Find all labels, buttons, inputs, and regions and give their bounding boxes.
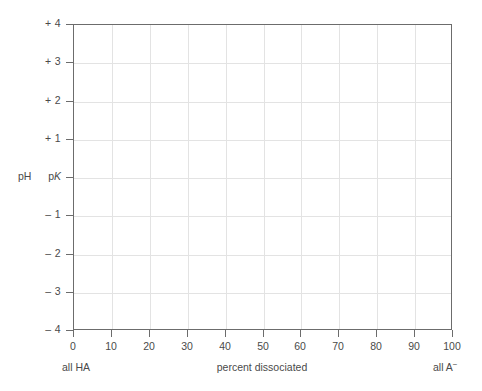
y-axis-tick-mark	[66, 101, 73, 102]
y-axis-tick-mark	[66, 139, 73, 140]
x-axis-tick-label: 100	[443, 340, 461, 352]
gridline-horizontal	[74, 63, 451, 64]
gridline-vertical	[339, 25, 340, 329]
gridline-vertical	[377, 25, 378, 329]
y-axis-title: pH	[18, 170, 31, 182]
plot-area	[73, 24, 452, 330]
gridline-vertical	[301, 25, 302, 329]
y-axis-tick-mark	[66, 62, 73, 63]
x-axis-tick-mark	[338, 330, 339, 337]
x-axis-tick-label: 30	[181, 340, 193, 352]
gridline-horizontal	[74, 140, 451, 141]
annotation-all-a-base: all A	[433, 361, 453, 373]
y-axis-tick-label: – 3	[45, 285, 61, 297]
y-axis-tick-mark	[66, 24, 73, 25]
x-axis-title: percent dissociated	[217, 361, 307, 373]
gridline-horizontal	[74, 102, 451, 103]
x-axis-tick-mark	[300, 330, 301, 337]
x-axis-tick-mark	[414, 330, 415, 337]
x-axis-tick-label: 20	[143, 340, 155, 352]
gridline-vertical	[112, 25, 113, 329]
x-axis-tick-label: 10	[105, 340, 117, 352]
x-axis-tick-label: 60	[294, 340, 306, 352]
pk-italic-k: K	[54, 170, 61, 182]
y-axis-tick-label: + 1	[45, 132, 61, 144]
x-axis-tick-mark	[225, 330, 226, 337]
x-axis-tick-mark	[111, 330, 112, 337]
y-axis-tick-label: pK	[48, 170, 61, 182]
annotation-all-a-minus: all A−	[433, 361, 458, 373]
x-axis-tick-label: 50	[257, 340, 269, 352]
x-axis-tick-mark	[187, 330, 188, 337]
x-axis-tick-label: 80	[370, 340, 382, 352]
y-axis-tick-label: + 2	[45, 94, 61, 106]
gridline-horizontal	[74, 178, 451, 179]
x-axis-tick-label: 90	[408, 340, 420, 352]
x-axis-tick-label: 40	[219, 340, 231, 352]
annotation-all-ha: all HA	[62, 361, 90, 373]
y-axis-tick-mark	[66, 177, 73, 178]
chart-figure: pH + 4+ 3+ 2+ 1pK– 1– 2– 3– 4 0102030405…	[0, 0, 482, 391]
gridline-vertical	[188, 25, 189, 329]
gridline-horizontal	[74, 255, 451, 256]
gridline-vertical	[150, 25, 151, 329]
x-axis-tick-mark	[73, 330, 74, 337]
x-axis-tick-mark	[452, 330, 453, 337]
gridline-vertical	[264, 25, 265, 329]
gridline-vertical	[415, 25, 416, 329]
gridline-vertical	[226, 25, 227, 329]
y-axis-tick-mark	[66, 292, 73, 293]
x-axis-tick-label: 0	[70, 340, 76, 352]
gridline-horizontal	[74, 293, 451, 294]
annotation-minus-charge: −	[453, 360, 458, 369]
y-axis-tick-label: + 3	[45, 55, 61, 67]
y-axis-tick-mark	[66, 215, 73, 216]
y-axis-tick-label: – 1	[45, 208, 61, 220]
x-axis-tick-label: 70	[332, 340, 344, 352]
y-axis-tick-label: – 4	[45, 323, 61, 335]
y-axis-tick-label: + 4	[45, 17, 61, 29]
y-axis-tick-mark	[66, 254, 73, 255]
y-axis-tick-mark	[66, 330, 73, 331]
y-axis-tick-label: – 2	[45, 247, 61, 259]
x-axis-tick-mark	[376, 330, 377, 337]
x-axis-tick-mark	[149, 330, 150, 337]
gridline-horizontal	[74, 216, 451, 217]
x-axis-tick-mark	[263, 330, 264, 337]
